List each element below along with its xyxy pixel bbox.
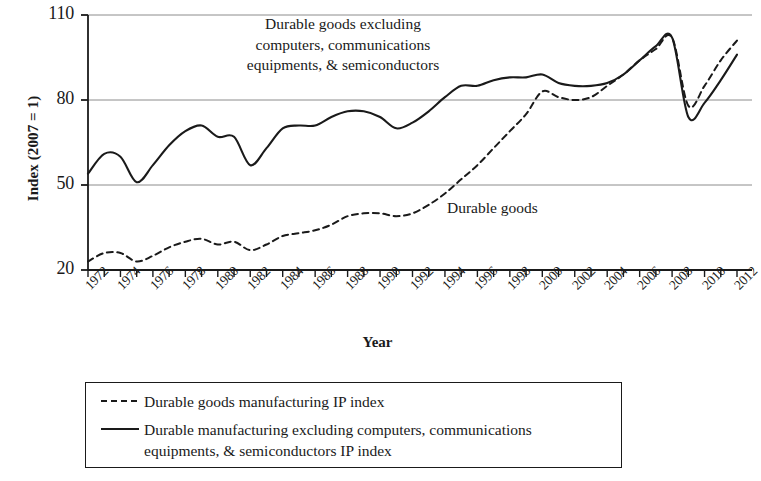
- y-axis-title: Index (2007 = 1): [25, 54, 42, 244]
- x-axis-tickmarks: [88, 270, 737, 277]
- legend-label-durable-goods: Durable goods manufacturing IP index: [144, 392, 384, 413]
- legend-item-durable-goods: Durable goods manufacturing IP index: [100, 392, 609, 413]
- annotation-durable-goods: Durable goods: [447, 198, 607, 219]
- solid-line-swatch-icon: [100, 420, 144, 440]
- y-tick-label: 110: [18, 3, 74, 24]
- y-tick-label: 20: [18, 258, 74, 279]
- x-axis-title: Year: [0, 334, 755, 351]
- legend-item-durable-excluding: Durable manufacturing excluding computer…: [100, 420, 609, 462]
- legend: Durable goods manufacturing IP index Dur…: [85, 382, 622, 468]
- y-axis-tickmarks: [81, 15, 88, 270]
- legend-label-durable-excluding: Durable manufacturing excluding computer…: [144, 420, 532, 462]
- dashed-line-swatch-icon: [100, 392, 144, 412]
- annotation-excluding-series: Durable goods excluding computers, commu…: [188, 14, 498, 76]
- plot-area: 205080110 197219741976197819801982198419…: [0, 0, 755, 370]
